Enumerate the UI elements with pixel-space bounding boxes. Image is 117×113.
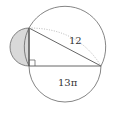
geometry-diagram: 12 13π: [0, 0, 117, 113]
hypotenuse-label: 12: [69, 35, 82, 46]
diagram-svg: 12 13π: [0, 0, 117, 113]
right-angle-marker: [29, 60, 35, 66]
circumcircle-arc: [24, 6, 105, 66]
bottom-semicircle-label: 13π: [58, 77, 78, 88]
right-triangle: [29, 28, 101, 66]
